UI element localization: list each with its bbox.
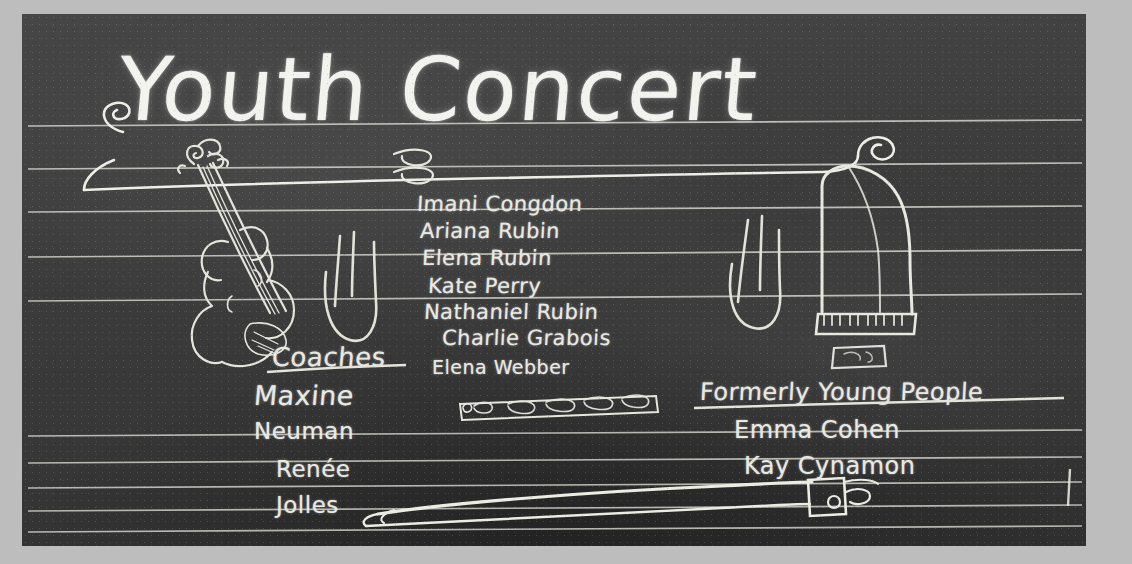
photo-frame: Youth Concert Imani Congdon Ariana Rubin… [0, 0, 1132, 564]
chalkboard: Youth Concert Imani Congdon Ariana Rubin… [22, 14, 1086, 546]
fyp-name: Kay Cynamon [744, 452, 916, 480]
fyp-name: Emma Cohen [734, 416, 900, 444]
fyp-heading-underline [22, 14, 1086, 546]
